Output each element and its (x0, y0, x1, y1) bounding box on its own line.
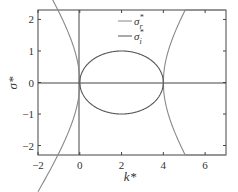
legend: σ*r σ*i (118, 13, 143, 46)
sigma-i-upper (80, 51, 164, 83)
legend-label-sigma-i: σ*i (134, 28, 143, 46)
chart: −20246−2−1012 k* σ* σ*r σ*i (0, 0, 238, 192)
y-axis-label: σ* (5, 76, 20, 89)
x-tick-label: 4 (161, 159, 167, 171)
sigma-i-lower (80, 83, 164, 115)
y-tick-label: 2 (29, 13, 35, 25)
ticks-layer: −20246−2−1012 (22, 10, 226, 171)
x-axis-label: k* (124, 169, 137, 184)
y-tick-label: −1 (22, 108, 34, 120)
x-tick-label: −2 (32, 159, 44, 171)
sigma-r-left-upper (38, 0, 80, 83)
sigma-r-left-lower (38, 83, 80, 192)
sigma-r-right-upper (163, 10, 226, 83)
y-tick-label: 0 (29, 77, 35, 89)
y-tick-label: 1 (29, 45, 35, 57)
y-tick-label: −2 (22, 140, 34, 152)
x-tick-label: 6 (202, 159, 208, 171)
series-layer (38, 0, 226, 192)
sigma-r-right-lower (163, 83, 226, 156)
x-tick-label: 0 (77, 159, 83, 171)
